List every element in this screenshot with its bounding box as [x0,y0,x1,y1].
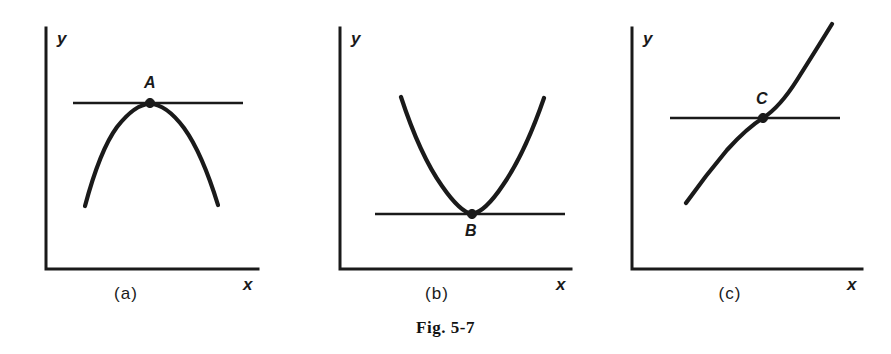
panel-a-point-A-dot [145,98,154,107]
panel-c-x-axis-label: x [846,275,858,294]
panel-b-point-B-dot [467,209,476,218]
figure-container: y x A (a) y x B (b) y x [0,0,891,354]
panel-b: y x B (b) [340,28,571,303]
panel-b-y-axis-label: y [350,29,362,48]
panel-c-point-C-label: C [756,90,768,107]
panel-b-parabola-curve [401,97,544,214]
panel-b-caption: (b) [425,284,449,303]
panel-c-caption: (c) [719,284,742,303]
panel-c-axes [632,28,862,269]
figure-caption: Fig. 5-7 [0,318,891,338]
panel-a: y x A (a) [46,28,258,303]
panel-c: y x C (c) [632,24,862,303]
panel-b-x-axis-label: x [555,275,567,294]
panel-c-y-axis-label: y [642,29,654,48]
panel-a-y-axis-label: y [56,29,68,48]
panel-b-axes [340,28,571,269]
panel-a-axes [46,28,258,269]
panel-a-point-A-label: A [143,74,156,91]
panel-a-caption: (a) [114,284,138,303]
panel-a-parabola-curve [85,104,218,206]
panel-a-x-axis-label: x [242,275,254,294]
panel-c-point-C-dot [758,113,767,122]
figure-svg: y x A (a) y x B (b) y x [0,0,891,354]
panel-c-cubic-curve [686,24,832,203]
panel-b-point-B-label: B [465,222,477,239]
